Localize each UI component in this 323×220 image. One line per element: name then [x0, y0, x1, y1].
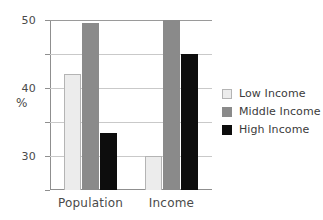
legend-item-label: Middle Income: [239, 105, 321, 118]
bar-high-income-income: [181, 54, 198, 190]
y-axis-tick: 0: [45, 190, 50, 191]
y-axis-tick-label: 50: [21, 14, 36, 27]
bar-high-income-population: [100, 133, 117, 190]
legend-swatch-icon: [222, 125, 232, 135]
bars-group: [50, 20, 212, 190]
legend-item-low-income[interactable]: Low Income: [222, 86, 321, 101]
x-axis-label-income: Income: [149, 196, 194, 210]
bar-middle-income-income: [163, 20, 180, 190]
bar-low-income-income: [145, 156, 162, 190]
legend-item-label: Low Income: [239, 87, 306, 100]
plot-area: 01020304050: [50, 20, 212, 190]
chart-legend: Low IncomeMiddle IncomeHigh Income: [222, 86, 321, 140]
y-axis-tick-label: 40: [21, 82, 36, 95]
y-axis-title: %: [16, 96, 28, 110]
x-axis-label-population: Population: [58, 196, 123, 210]
y-axis-tick-label: 30: [21, 150, 36, 163]
legend-item-middle-income[interactable]: Middle Income: [222, 104, 321, 119]
legend-swatch-icon: [222, 89, 232, 99]
legend-swatch-icon: [222, 107, 232, 117]
bar-middle-income-population: [82, 23, 99, 190]
legend-item-high-income[interactable]: High Income: [222, 122, 321, 137]
bar-low-income-population: [64, 74, 81, 190]
y-axis-tick-label: 20: [21, 218, 36, 220]
bar-chart-figure: % 01020304050 PopulationIncome Low Incom…: [0, 0, 323, 219]
legend-item-label: High Income: [239, 123, 309, 136]
